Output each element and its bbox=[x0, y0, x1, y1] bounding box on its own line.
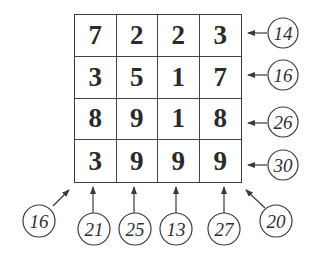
row-sum-1: 16 bbox=[248, 60, 298, 90]
row-sum-3: 30 bbox=[248, 150, 298, 180]
row-sum-label: 14 bbox=[274, 23, 294, 44]
row-sum-2: 26 bbox=[248, 107, 298, 137]
row-sum-0: 14 bbox=[248, 18, 298, 48]
column-sum-label: 21 bbox=[85, 219, 104, 240]
sum-annotations: 14 16 26 30 21 25 bbox=[0, 0, 318, 257]
diagonal-sum-label: 16 bbox=[30, 211, 50, 232]
column-sum-3: 27 bbox=[208, 187, 240, 245]
row-sum-label: 16 bbox=[274, 65, 294, 86]
arrow-diagonal-icon bbox=[53, 190, 69, 206]
number-grid-puzzle: 7 2 2 3 3 5 1 7 8 9 1 8 3 9 9 9 14 1 bbox=[0, 0, 318, 257]
diagonal-sum-bottom-left: 16 bbox=[23, 190, 69, 237]
column-sum-1: 25 bbox=[119, 187, 151, 245]
column-sum-2: 13 bbox=[160, 187, 192, 245]
column-sum-label: 13 bbox=[167, 219, 186, 240]
column-sum-label: 27 bbox=[215, 219, 236, 240]
column-sum-0: 21 bbox=[78, 187, 110, 245]
row-sum-label: 26 bbox=[274, 112, 294, 133]
row-sum-label: 30 bbox=[273, 155, 294, 176]
arrow-diagonal-icon bbox=[246, 190, 265, 208]
column-sum-label: 25 bbox=[126, 219, 145, 240]
diagonal-sum-bottom-right: 20 bbox=[246, 190, 292, 237]
diagonal-sum-label: 20 bbox=[267, 211, 287, 232]
